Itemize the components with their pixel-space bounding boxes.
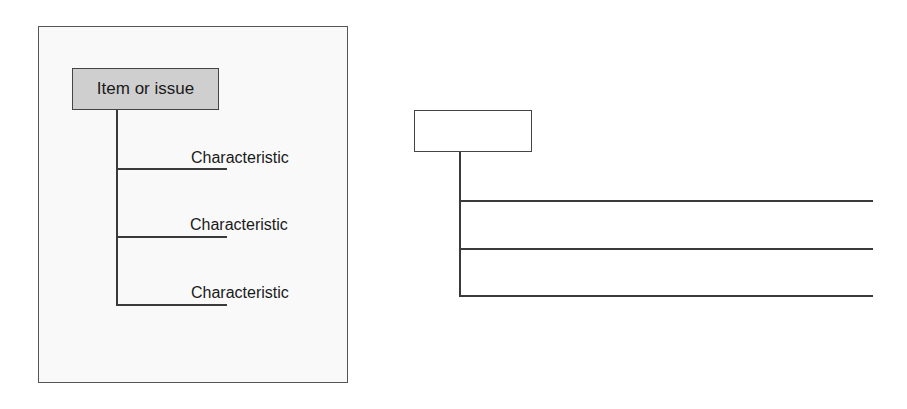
branch-line-3	[117, 304, 227, 306]
root-node-item-or-issue: Item or issue	[72, 68, 219, 110]
branch-line-2	[117, 236, 227, 238]
root-node-label: Item or issue	[97, 79, 194, 99]
blank-root-node	[414, 110, 532, 152]
characteristic-label-2: Characteristic	[190, 216, 288, 234]
branch-line-1	[117, 168, 227, 170]
characteristic-label-1: Characteristic	[191, 149, 289, 167]
blank-line-2	[459, 248, 873, 250]
blank-trunk-line	[459, 152, 461, 296]
trunk-line	[116, 110, 118, 306]
characteristic-label-3: Characteristic	[191, 284, 289, 302]
blank-line-1	[459, 200, 873, 202]
blank-line-3	[459, 295, 873, 297]
